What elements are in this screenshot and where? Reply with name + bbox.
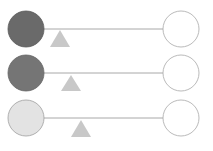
left-mass-medium xyxy=(8,55,44,91)
left-mass-light xyxy=(8,100,44,136)
fulcrum-triangle xyxy=(71,120,91,137)
right-mass-empty xyxy=(163,11,199,47)
lever-2 xyxy=(8,55,199,91)
lever-1 xyxy=(8,11,199,47)
fulcrum-triangle xyxy=(61,75,81,91)
lever-3 xyxy=(8,100,199,137)
lever-diagram xyxy=(0,0,213,151)
left-mass-dark xyxy=(8,11,44,47)
fulcrum-triangle xyxy=(50,30,70,47)
right-mass-empty xyxy=(163,100,199,136)
right-mass-empty xyxy=(163,55,199,91)
